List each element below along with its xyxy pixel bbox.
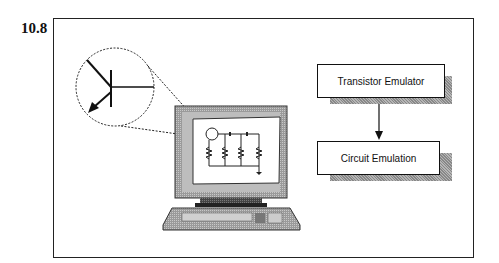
- circuit-emulation-box: Circuit Emulation: [317, 141, 440, 175]
- illustration: [0, 0, 499, 263]
- arrow-icon: [375, 98, 383, 140]
- computer-monitor-icon: [175, 106, 287, 207]
- transistor-emulator-box: Transistor Emulator: [317, 64, 445, 98]
- keyboard-icon: [163, 208, 300, 230]
